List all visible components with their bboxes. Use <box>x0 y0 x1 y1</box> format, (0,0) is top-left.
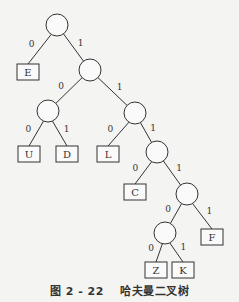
leaf-D: D <box>56 146 78 162</box>
internal-node-n4 <box>146 141 168 163</box>
bit-label: 0 <box>25 124 31 134</box>
internal-node-n6 <box>154 222 176 244</box>
bit-label: 1 <box>206 206 212 216</box>
leaf-C: C <box>124 184 146 200</box>
internal-node-root <box>46 14 68 36</box>
edge-n1-n3 <box>98 78 127 106</box>
bit-label: 1 <box>150 123 156 133</box>
bit-label: 0 <box>58 81 64 91</box>
bit-label: 0 <box>165 204 171 214</box>
internal-node-n2 <box>37 100 59 122</box>
internal-node-n1 <box>79 59 101 81</box>
figure-caption: 图 2 - 22 哈夫曼二叉树 <box>0 282 239 298</box>
figure-number: 图 2 - 22 <box>50 285 104 298</box>
leaf-K: K <box>172 262 194 278</box>
leaf-E: E <box>17 64 39 80</box>
internal-nodes <box>37 14 198 244</box>
leaf-label: K <box>179 265 187 276</box>
leaf-Z: Z <box>145 262 167 278</box>
leaf-nodes: EUDLCFZK <box>17 64 223 278</box>
bit-label: 1 <box>176 163 182 173</box>
bit-label: 1 <box>64 124 70 134</box>
bit-label: 0 <box>132 163 138 173</box>
edge-n2-U <box>29 121 44 146</box>
edge-n5-n6 <box>170 204 181 224</box>
leaf-label: Z <box>153 265 160 276</box>
internal-node-n3 <box>124 102 146 124</box>
edge-bit-labels: 01010101010101 <box>25 38 212 253</box>
leaf-label: D <box>63 149 71 160</box>
bit-label: 1 <box>117 82 123 92</box>
leaf-label: C <box>131 187 139 198</box>
bit-label: 0 <box>108 124 114 134</box>
huffman-tree-diagram: 01010101010101 EUDLCFZK <box>0 0 239 282</box>
leaf-F: F <box>201 229 223 245</box>
figure-title: 哈夫曼二叉树 <box>120 285 189 298</box>
bit-label: 1 <box>181 242 187 252</box>
leaf-label: F <box>209 232 216 243</box>
bit-label: 1 <box>78 38 84 48</box>
internal-node-n5 <box>176 183 198 205</box>
leaf-L: L <box>97 146 119 162</box>
leaf-label: L <box>105 149 112 160</box>
edge-n6-Z <box>156 244 162 262</box>
bit-label: 0 <box>29 39 35 49</box>
leaf-label: E <box>24 67 31 78</box>
leaf-U: U <box>18 146 40 162</box>
bit-label: 0 <box>148 243 154 253</box>
leaf-label: U <box>25 149 33 160</box>
